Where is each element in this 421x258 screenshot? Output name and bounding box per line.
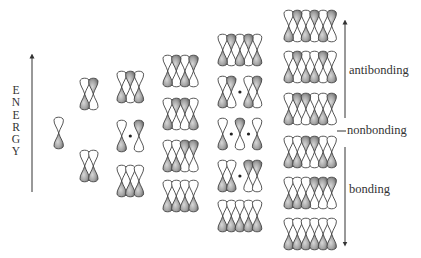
unshaded-lobe xyxy=(172,71,181,87)
molecular-orbital-level xyxy=(284,218,336,250)
unshaded-lobe xyxy=(134,136,143,152)
shaded-lobe xyxy=(117,136,126,152)
shaded-lobe xyxy=(244,160,253,176)
shaded-lobe xyxy=(293,10,302,26)
node-dot xyxy=(247,132,250,135)
antibonding-label: antibonding xyxy=(349,63,409,78)
shaded-lobe xyxy=(301,136,310,152)
molecular-orbital-level xyxy=(80,150,98,182)
unshaded-lobe xyxy=(284,136,293,152)
unshaded-lobe xyxy=(301,218,310,234)
unshaded-lobe xyxy=(284,10,293,26)
shaded-lobe xyxy=(318,51,327,67)
node-dot xyxy=(230,132,233,135)
molecular-orbital-level xyxy=(284,10,336,42)
unshaded-lobe xyxy=(172,114,181,130)
shaded-lobe xyxy=(327,177,336,193)
unshaded-lobe xyxy=(227,200,236,216)
shaded-lobe xyxy=(227,76,236,92)
unshaded-lobe xyxy=(163,55,172,71)
shaded-lobe xyxy=(117,181,126,197)
shaded-lobe xyxy=(89,78,98,94)
unshaded-lobe xyxy=(310,26,319,42)
shaded-lobe xyxy=(327,234,336,250)
unshaded-lobe xyxy=(117,120,126,136)
unshaded-lobe xyxy=(310,152,319,168)
unshaded-lobe xyxy=(284,177,293,193)
unshaded-lobe xyxy=(189,71,198,87)
unshaded-lobe xyxy=(301,51,310,67)
unshaded-lobe xyxy=(244,176,253,192)
shaded-lobe xyxy=(301,93,310,109)
unshaded-lobe xyxy=(310,51,319,67)
shaded-lobe xyxy=(218,92,227,108)
molecular-orbital-level xyxy=(54,117,63,149)
shaded-lobe xyxy=(189,196,198,212)
nonbonding-label: nonbonding xyxy=(347,123,407,138)
orbital-column-2 xyxy=(80,78,98,182)
unshaded-lobe xyxy=(318,218,327,234)
shaded-lobe xyxy=(284,67,293,83)
shaded-lobe xyxy=(172,55,181,71)
unshaded-lobe xyxy=(126,165,135,181)
shaded-lobe xyxy=(126,181,135,197)
unshaded-lobe xyxy=(318,93,327,109)
unshaded-lobe xyxy=(301,109,310,125)
molecular-orbital-level xyxy=(163,98,198,130)
orbital-column-1 xyxy=(54,117,63,149)
shaded-lobe xyxy=(252,134,261,150)
shaded-lobe xyxy=(284,152,293,168)
unshaded-lobe xyxy=(318,10,327,26)
unshaded-lobe xyxy=(327,109,336,125)
shaded-lobe xyxy=(293,193,302,209)
shaded-lobe xyxy=(80,94,89,110)
unshaded-lobe xyxy=(89,150,98,166)
unshaded-lobe xyxy=(218,76,227,92)
shaded-lobe xyxy=(310,109,319,125)
shaded-lobe xyxy=(318,152,327,168)
shaded-lobe xyxy=(318,177,327,193)
molecular-orbital-level xyxy=(284,51,336,83)
energy-axis-label: E N E R G Y xyxy=(10,84,22,158)
energy-letter: E xyxy=(10,109,22,121)
shaded-lobe xyxy=(301,193,310,209)
unshaded-lobe xyxy=(252,200,261,216)
unshaded-lobe xyxy=(318,193,327,209)
unshaded-lobe xyxy=(80,150,89,166)
molecular-orbital-level xyxy=(117,71,144,103)
shaded-lobe xyxy=(134,181,143,197)
unshaded-lobe xyxy=(235,200,244,216)
energy-letter: R xyxy=(10,121,22,133)
unshaded-lobe xyxy=(172,180,181,196)
unshaded-lobe xyxy=(235,134,244,150)
shaded-lobe xyxy=(327,67,336,83)
shaded-lobe xyxy=(180,71,189,87)
shaded-lobe xyxy=(163,196,172,212)
shaded-lobe xyxy=(301,26,310,42)
energy-letter: N xyxy=(10,96,22,108)
molecular-orbital-level xyxy=(80,78,98,110)
unshaded-lobe xyxy=(327,136,336,152)
energy-letter: Y xyxy=(10,145,22,157)
unshaded-lobe xyxy=(227,92,236,108)
unshaded-lobe xyxy=(227,50,236,66)
shaded-lobe xyxy=(252,76,261,92)
shaded-lobe xyxy=(284,109,293,125)
molecular-orbital-level xyxy=(163,140,198,172)
unshaded-lobe xyxy=(218,200,227,216)
orbital-column-3 xyxy=(117,71,144,197)
unshaded-lobe xyxy=(252,118,261,134)
shaded-lobe xyxy=(327,10,336,26)
molecular-orbital-level xyxy=(284,177,336,209)
shaded-lobe xyxy=(293,234,302,250)
molecular-orbital-level xyxy=(163,180,198,212)
unshaded-lobe xyxy=(180,114,189,130)
molecular-orbital-level xyxy=(117,120,144,152)
shaded-lobe xyxy=(172,196,181,212)
shaded-lobe xyxy=(318,26,327,42)
unshaded-lobe xyxy=(293,26,302,42)
shaded-lobe xyxy=(318,234,327,250)
unshaded-lobe xyxy=(244,200,253,216)
shaded-lobe xyxy=(327,152,336,168)
molecular-orbital-level xyxy=(163,55,198,87)
